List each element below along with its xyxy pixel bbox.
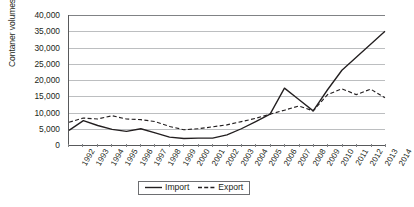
- legend-label-import: Import: [165, 183, 189, 192]
- x-axis-tick-label: 2012: [369, 148, 385, 167]
- x-axis-tick-label: 1995: [124, 148, 140, 167]
- x-axis-tick-label: 2004: [254, 148, 270, 167]
- x-axis-tick-label: 1999: [182, 148, 198, 167]
- y-axis-tick-label: 15,000: [14, 92, 60, 100]
- x-axis-tick-label: 1998: [167, 148, 183, 167]
- x-axis-tick-mark: [183, 144, 184, 147]
- x-axis-tick-label: 1994: [110, 148, 126, 167]
- y-axis-tick-label: 5,000: [14, 125, 60, 133]
- x-axis-tick-mark: [327, 144, 328, 147]
- x-axis-tick-mark: [255, 144, 256, 147]
- x-axis-tick-mark: [241, 144, 242, 147]
- x-axis-tick-mark: [212, 144, 213, 147]
- x-axis-tick-mark: [169, 144, 170, 147]
- x-axis-tick-label: 2000: [196, 148, 212, 167]
- x-axis-tick-mark: [356, 144, 357, 147]
- legend-swatch-dashed-line: [198, 184, 215, 191]
- chart-legend: Import Export: [138, 181, 250, 195]
- series-line-import: [69, 31, 385, 138]
- legend-swatch-solid-line: [145, 184, 162, 191]
- legend-entry-export: Export: [198, 183, 243, 192]
- x-axis-tick-mark: [198, 144, 199, 147]
- x-axis-tick-mark: [270, 144, 271, 147]
- x-axis-tick-mark: [140, 144, 141, 147]
- x-axis-tick-labels: 1992199319941995199619971998199920002001…: [68, 146, 388, 182]
- legend-entry-import: Import: [145, 183, 189, 192]
- y-axis-tick-label: 20,000: [14, 76, 60, 84]
- y-axis-tick-label: 10,000: [14, 109, 60, 117]
- x-axis-tick-label: 2002: [225, 148, 241, 167]
- x-axis-tick-label: 2007: [297, 148, 313, 167]
- x-axis-tick-mark: [227, 144, 228, 147]
- x-axis-tick-label: 2005: [268, 148, 284, 167]
- x-axis-tick-mark: [97, 144, 98, 147]
- plot-area: [68, 15, 385, 145]
- x-axis-tick-label: 1993: [95, 148, 111, 167]
- x-axis-tick-mark: [126, 144, 127, 147]
- x-axis-tick-mark: [313, 144, 314, 147]
- y-axis-tick-labels: 05,00010,00015,00020,00025,00030,00035,0…: [14, 9, 60, 149]
- x-axis-tick-label: 2006: [283, 148, 299, 167]
- x-axis-tick-mark: [371, 144, 372, 147]
- x-axis-tick-label: 1996: [139, 148, 155, 167]
- x-axis-tick-label: 2008: [311, 148, 327, 167]
- series-layer: [69, 15, 385, 145]
- x-axis-tick-label: 2011: [354, 148, 370, 167]
- x-axis-tick-label: 2001: [211, 148, 227, 167]
- x-axis-tick-label: 2014: [398, 148, 414, 167]
- x-axis-tick-mark: [284, 144, 285, 147]
- legend-label-export: Export: [218, 183, 243, 192]
- x-axis-tick-label: 2003: [239, 148, 255, 167]
- x-axis-tick-mark: [68, 144, 69, 147]
- y-axis-tick-label: 30,000: [14, 44, 60, 52]
- x-axis-tick-mark: [299, 144, 300, 147]
- x-axis-tick-label: 2009: [326, 148, 342, 167]
- y-axis-tick-label: 0: [14, 141, 60, 149]
- x-axis-tick-mark: [385, 144, 386, 147]
- y-axis-tick-label: 40,000: [14, 11, 60, 19]
- x-axis-tick-mark: [111, 144, 112, 147]
- x-axis-tick-mark: [154, 144, 155, 147]
- x-axis-tick-label: 1992: [81, 148, 97, 167]
- y-axis-tick-label: 25,000: [14, 60, 60, 68]
- x-axis-tick-label: 1997: [153, 148, 169, 167]
- x-axis-tick-label: 2010: [340, 148, 356, 167]
- y-axis-tick-label: 35,000: [14, 27, 60, 35]
- series-line-export: [69, 89, 385, 130]
- x-axis-tick-mark: [82, 144, 83, 147]
- x-axis-tick-mark: [342, 144, 343, 147]
- x-axis-tick-label: 2013: [383, 148, 399, 167]
